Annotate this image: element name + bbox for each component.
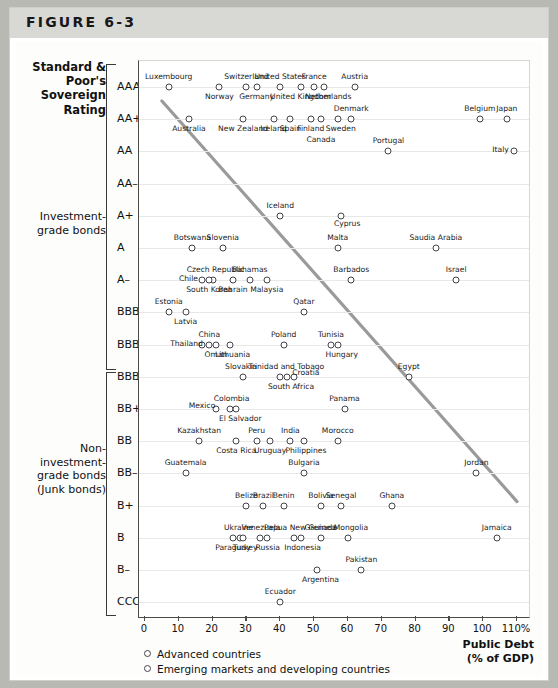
data-point[interactable]: [473, 470, 480, 477]
data-point[interactable]: [344, 534, 351, 541]
data-point[interactable]: [334, 245, 341, 252]
data-point-label: Russia: [256, 543, 280, 552]
data-point-label: Brazil: [253, 491, 274, 500]
data-point[interactable]: [348, 116, 355, 123]
data-point[interactable]: [348, 277, 355, 284]
data-point[interactable]: [277, 212, 284, 219]
data-point[interactable]: [165, 84, 172, 91]
y-axis-title-line-2: Sovereign: [14, 88, 106, 102]
data-point-label: Finland: [297, 124, 324, 133]
data-point[interactable]: [314, 567, 321, 574]
data-point[interactable]: [338, 502, 345, 509]
data-point[interactable]: [317, 502, 324, 509]
data-point[interactable]: [503, 116, 510, 123]
data-point[interactable]: [267, 438, 274, 445]
gridline-aa: [139, 151, 529, 152]
data-point[interactable]: [185, 116, 192, 123]
data-point[interactable]: [270, 116, 277, 123]
data-point[interactable]: [280, 502, 287, 509]
data-point-label: Jamaica: [482, 523, 512, 532]
data-point[interactable]: [246, 277, 253, 284]
data-point-label: Guatemala: [165, 458, 207, 467]
data-point[interactable]: [358, 567, 365, 574]
data-point[interactable]: [243, 84, 250, 91]
data-point[interactable]: [300, 470, 307, 477]
data-point[interactable]: [240, 534, 247, 541]
data-point[interactable]: [476, 116, 483, 123]
gridline-ccc+: [139, 602, 529, 603]
data-point[interactable]: [311, 84, 318, 91]
data-point[interactable]: [453, 277, 460, 284]
data-point-label: Uruguay: [254, 446, 286, 455]
data-point[interactable]: [263, 534, 270, 541]
group-label-junk-line-0: Non-: [10, 442, 106, 456]
data-point[interactable]: [284, 373, 291, 380]
data-point[interactable]: [213, 341, 220, 348]
data-point-label: Luxembourg: [145, 72, 192, 81]
data-point[interactable]: [253, 438, 260, 445]
data-point[interactable]: [196, 438, 203, 445]
data-point-label: France: [301, 72, 326, 81]
data-point[interactable]: [243, 502, 250, 509]
data-point[interactable]: [405, 373, 412, 380]
data-point[interactable]: [277, 84, 284, 91]
y-axis-title-line-0: Standard &: [14, 60, 106, 74]
x-axis-tick-label-80: 80: [408, 623, 421, 634]
data-point-label: Kazakhstan: [177, 426, 221, 435]
data-point[interactable]: [206, 277, 213, 284]
x-axis-tick-label-30: 30: [239, 623, 252, 634]
data-point[interactable]: [233, 438, 240, 445]
data-point[interactable]: [189, 245, 196, 252]
data-point-label: Ghana: [379, 491, 404, 500]
data-point[interactable]: [182, 470, 189, 477]
data-point-label: Bulgaria: [288, 458, 320, 467]
data-point[interactable]: [229, 277, 236, 284]
group-label-junk-line-1: investment-: [10, 456, 106, 470]
data-point[interactable]: [385, 148, 392, 155]
data-point[interactable]: [307, 116, 314, 123]
data-point[interactable]: [510, 148, 517, 155]
data-point-label: Tunisia: [318, 330, 344, 339]
data-point[interactable]: [341, 406, 348, 413]
data-point[interactable]: [334, 341, 341, 348]
data-point[interactable]: [219, 245, 226, 252]
data-point[interactable]: [182, 309, 189, 316]
y-axis-title-line-1: Poor's: [14, 74, 106, 88]
data-point[interactable]: [233, 406, 240, 413]
data-point[interactable]: [240, 373, 247, 380]
data-point[interactable]: [297, 534, 304, 541]
legend-item-label: Emerging markets and developing countrie…: [157, 663, 390, 675]
gridline-bb: [139, 473, 529, 474]
data-point[interactable]: [334, 116, 341, 123]
data-point-label: Japan: [496, 104, 517, 113]
data-point[interactable]: [317, 534, 324, 541]
data-point[interactable]: [432, 245, 439, 252]
figure-title: FIGURE 6-3: [26, 14, 136, 30]
data-point[interactable]: [321, 84, 328, 91]
data-point[interactable]: [388, 502, 395, 509]
data-point-label: Peru: [248, 426, 265, 435]
legend-item-0[interactable]: Advanced countries: [144, 646, 390, 661]
data-point[interactable]: [240, 116, 247, 123]
data-point[interactable]: [263, 277, 270, 284]
x-axis-tickmark-10: [178, 616, 179, 621]
data-point[interactable]: [493, 534, 500, 541]
data-point[interactable]: [216, 84, 223, 91]
data-point[interactable]: [351, 84, 358, 91]
legend-item-1[interactable]: Emerging markets and developing countrie…: [144, 661, 390, 676]
data-point[interactable]: [297, 84, 304, 91]
data-point[interactable]: [165, 309, 172, 316]
data-point[interactable]: [287, 438, 294, 445]
figure-body: Standard &Poor'sSovereignRating Investme…: [16, 42, 542, 676]
data-point[interactable]: [300, 309, 307, 316]
data-point[interactable]: [317, 116, 324, 123]
data-point[interactable]: [277, 599, 284, 606]
data-point[interactable]: [260, 502, 267, 509]
data-point[interactable]: [300, 438, 307, 445]
x-axis-tickmark-70: [381, 616, 382, 621]
data-point[interactable]: [280, 341, 287, 348]
data-point[interactable]: [334, 438, 341, 445]
data-point[interactable]: [253, 84, 260, 91]
data-point[interactable]: [287, 116, 294, 123]
data-point[interactable]: [226, 341, 233, 348]
